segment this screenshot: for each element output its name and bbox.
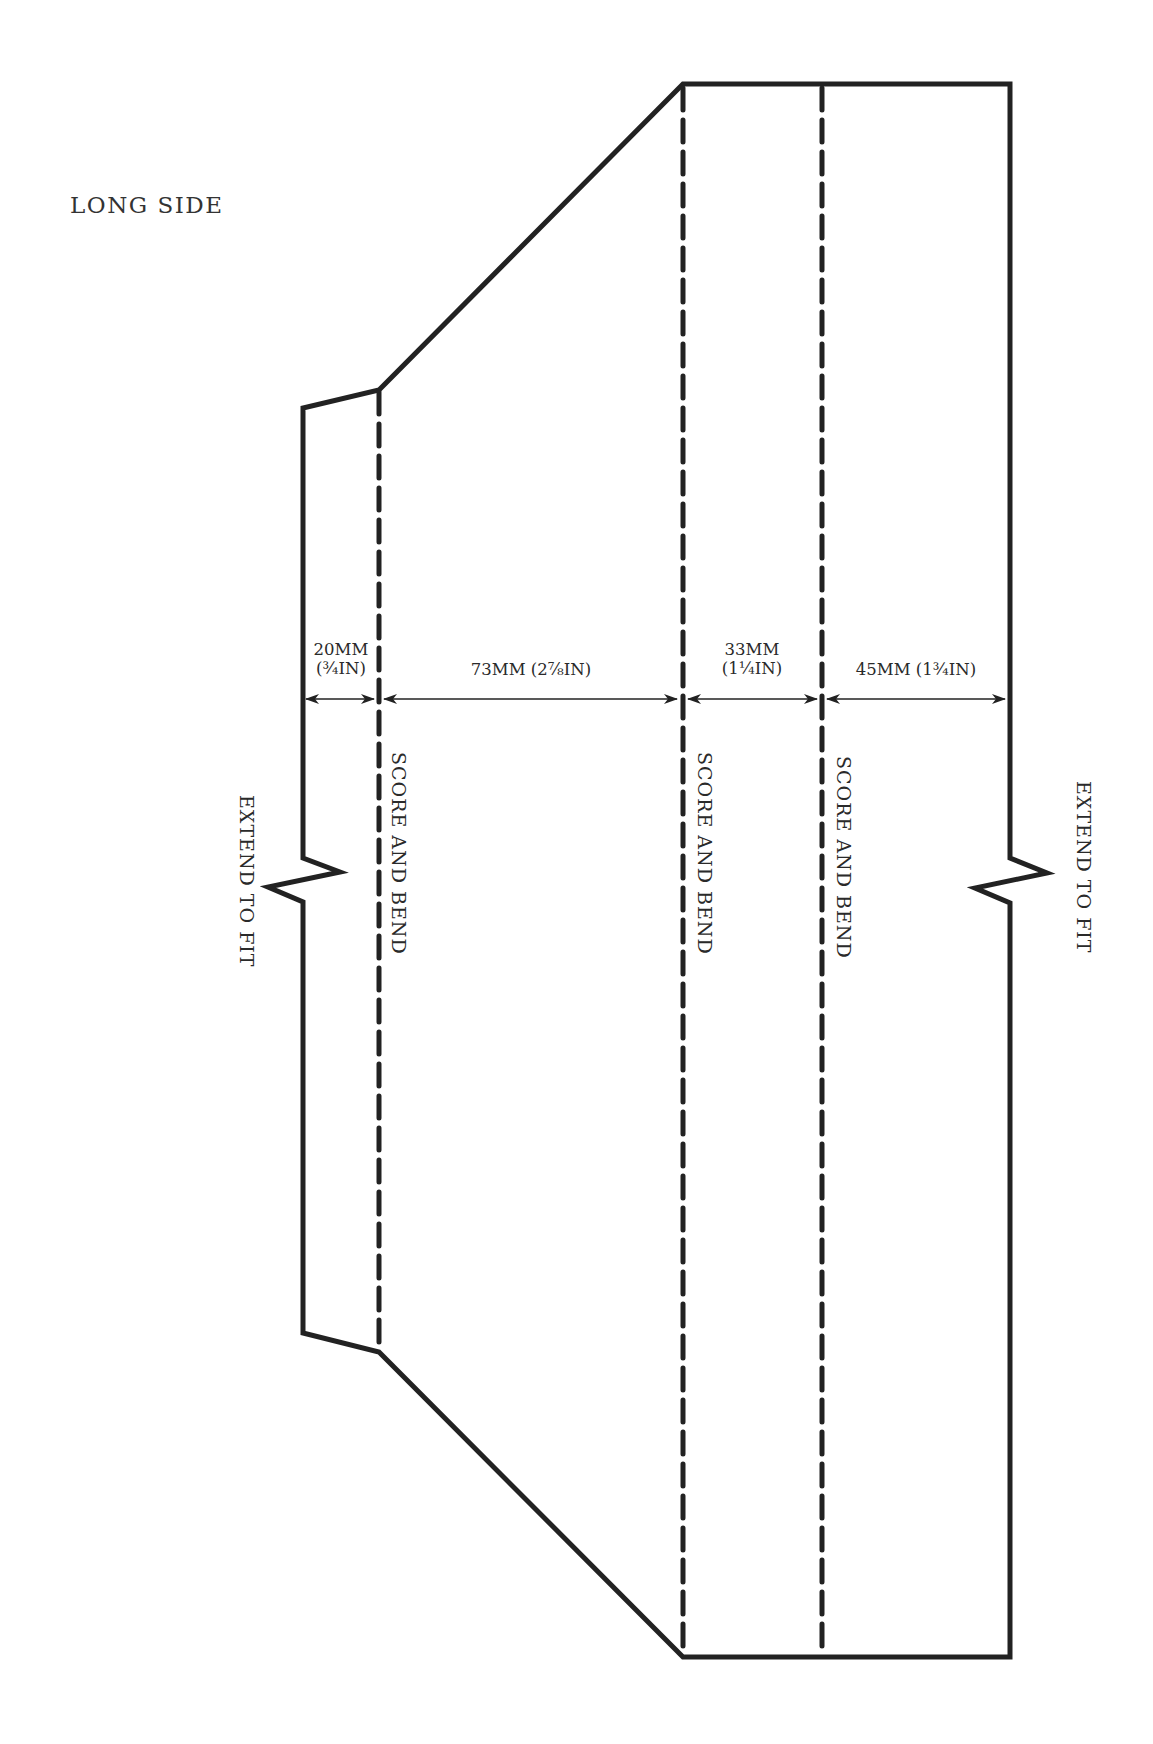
template-outline (0, 0, 1153, 1744)
extend-label-right: EXTEND TO FIT (1073, 781, 1095, 954)
dimension-in: (¾IN) (314, 659, 369, 678)
dimension-label-slope: 73MM (2⅞IN) (471, 660, 591, 679)
extend-label-left: EXTEND TO FIT (236, 795, 258, 968)
page-title: LONG SIDE (70, 192, 224, 218)
cut-outline (268, 84, 1047, 1657)
fold-label-1: SCORE AND BEND (388, 752, 410, 955)
fold-label-2: SCORE AND BEND (694, 752, 716, 955)
dimension-mm: 33MM (722, 640, 782, 659)
dimension-label-base: 45MM (1¾IN) (856, 660, 976, 679)
fold-label-3: SCORE AND BEND (833, 756, 855, 959)
dimension-mm: 20MM (314, 640, 369, 659)
dimension-mm-in: 45MM (1¾IN) (856, 660, 976, 679)
dimension-mm-in: 73MM (2⅞IN) (471, 660, 591, 679)
dimension-in: (1¼IN) (722, 659, 782, 678)
dimension-label-side: 33MM (1¼IN) (722, 640, 782, 678)
dimension-label-tab: 20MM (¾IN) (314, 640, 369, 678)
